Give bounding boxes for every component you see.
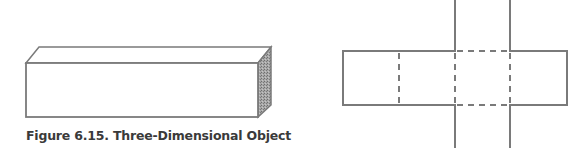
rectangular-prism (26, 47, 271, 117)
prism-net (343, 0, 567, 148)
figure-canvas (0, 0, 580, 148)
prism-top-face (26, 47, 271, 63)
figure-caption: Figure 6.15. Three-Dimensional Object (26, 128, 291, 143)
fold-lines (399, 51, 510, 105)
prism-front-face (26, 63, 258, 117)
net-outline (343, 0, 567, 148)
